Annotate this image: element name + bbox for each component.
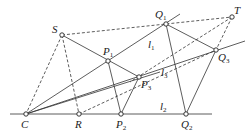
label-p2: P2 [115, 118, 127, 132]
segment-q1-q3 [166, 24, 216, 50]
label-t: T [234, 4, 241, 16]
dashed-t-q3 [216, 17, 232, 50]
point-q1 [164, 22, 168, 26]
label-s: S [52, 23, 58, 35]
label-q2: Q2 [181, 118, 193, 132]
segment-q3-q2 [186, 50, 216, 114]
label-q1: Q1 [155, 8, 167, 22]
point-c [24, 112, 28, 116]
point-q2 [184, 112, 188, 116]
point-s [60, 33, 64, 37]
segment-p3-p2 [121, 77, 139, 114]
point-r [77, 112, 81, 116]
point-p1 [106, 59, 110, 63]
label-p1: P1 [102, 45, 114, 59]
label-c: C [21, 118, 29, 130]
label-l2: l2 [160, 100, 167, 114]
label-l1: l1 [148, 38, 155, 52]
label-p3: P3 [140, 78, 152, 92]
segment-s-p3 [62, 35, 139, 77]
dashed-s-t [62, 17, 232, 35]
projective-construction-diagram: S T Q1 P1 P3 Q3 C R P2 Q2 l1 l3 l2 [0, 0, 252, 137]
label-r: R [74, 118, 82, 130]
point-p2 [119, 112, 123, 116]
label-q3: Q3 [218, 51, 230, 65]
